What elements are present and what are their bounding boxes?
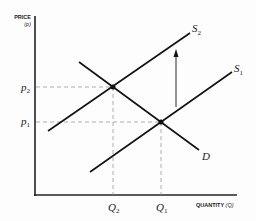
x-axis-title: QUANTITY (Q) [196, 202, 234, 208]
label-s1: S1 [234, 62, 244, 77]
supply-demand-diagram: PRICE (p) QUANTITY (Q) S2 S1 D p2 p1 Q2 … [0, 0, 256, 221]
label-p2: p2 [20, 81, 31, 95]
y-axis-symbol: (p) [24, 21, 31, 27]
label-q1: Q1 [156, 201, 168, 215]
shift-arrow-icon [174, 49, 179, 107]
equilibrium-point-2 [111, 85, 116, 90]
label-p1: p1 [20, 115, 31, 129]
label-d: D [201, 150, 210, 162]
equilibrium-point-1 [159, 120, 164, 125]
label-s2: S2 [192, 22, 202, 37]
label-q2: Q2 [108, 201, 120, 215]
guide-lines [36, 87, 161, 195]
y-axis-title: PRICE [14, 14, 31, 20]
